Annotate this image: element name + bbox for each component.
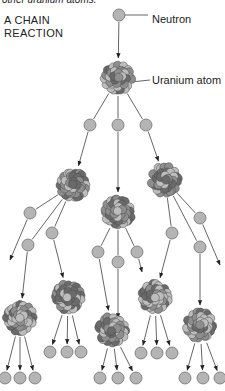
uranium-atom-icon	[95, 313, 130, 347]
neutron-icon	[84, 119, 96, 131]
fission-line	[167, 198, 171, 226]
uranium-atom-icon	[52, 280, 85, 314]
arrow	[78, 132, 88, 166]
neutron-icon	[112, 119, 124, 131]
fission-line	[36, 195, 58, 209]
fission-line	[127, 93, 142, 119]
neutron-icon	[151, 347, 163, 359]
arrow	[160, 240, 170, 278]
particles-layer	[0, 9, 225, 384]
neutron-icon	[140, 119, 152, 131]
neutron-icon	[92, 246, 104, 258]
uranium-atom-icon	[101, 195, 135, 229]
arrow	[207, 343, 217, 371]
neutron-icon	[135, 347, 147, 359]
uranium-atom-icon	[2, 300, 37, 335]
neutron-icon	[0, 372, 11, 384]
neutron-icon	[197, 372, 209, 384]
neutron-icon	[166, 347, 178, 359]
arrow	[72, 315, 79, 344]
fission-line	[94, 93, 109, 119]
chain-reaction-diagram	[0, 0, 225, 391]
neutron-icon	[112, 256, 124, 268]
neutron-icon	[131, 246, 143, 258]
neutron-icon	[194, 241, 206, 253]
arrow	[54, 240, 63, 278]
uranium-atom-icon	[56, 169, 90, 201]
uranium-atom-icon	[183, 308, 217, 342]
neutron-icon	[22, 239, 34, 251]
neutron-icon	[94, 372, 106, 384]
arrow	[187, 343, 195, 370]
arrow	[156, 316, 157, 345]
neutron-icon	[44, 346, 56, 358]
arrow	[161, 315, 170, 345]
uranium-atom-icon	[147, 163, 182, 197]
arrow	[148, 132, 158, 161]
neutron-icon	[24, 207, 36, 219]
arrow	[99, 259, 108, 310]
fission-line	[101, 228, 110, 246]
neutron-icon	[166, 227, 178, 239]
arrow	[52, 315, 62, 344]
neutron-icon	[61, 346, 73, 358]
neutron-icon	[179, 372, 191, 384]
arrow	[120, 347, 132, 371]
arrow	[22, 252, 27, 298]
arrow	[102, 348, 107, 370]
uranium-atom-icon	[100, 61, 135, 94]
neutron-icon	[14, 372, 26, 384]
neutron-icon	[130, 372, 142, 384]
neutron-icon	[194, 212, 206, 224]
neutron-icon	[214, 372, 225, 384]
arrow	[114, 349, 117, 370]
neutron-icon	[46, 227, 58, 239]
arrow	[67, 316, 68, 344]
arrow	[118, 22, 119, 58]
neutron-icon	[112, 372, 124, 384]
arrow	[201, 344, 202, 370]
neutron-icon	[113, 9, 125, 21]
uranium-atom-icon	[138, 279, 172, 313]
arrow	[143, 315, 150, 345]
fission-line	[55, 201, 66, 226]
arrow	[7, 336, 15, 370]
neutron-icon	[75, 346, 87, 358]
arrow	[139, 259, 142, 272]
neutron-icon	[29, 372, 41, 384]
arrow	[25, 336, 33, 370]
fission-line	[177, 193, 195, 213]
fission-line	[126, 228, 134, 245]
